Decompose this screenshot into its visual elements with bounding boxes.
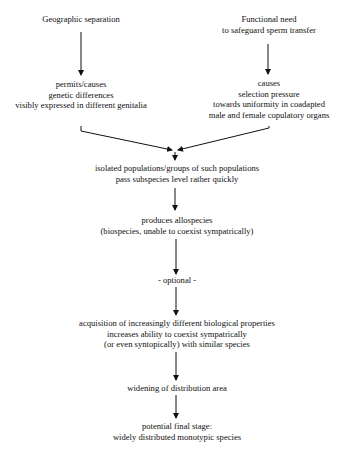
node-widening-distribution: widening of distribution area (0, 383, 354, 394)
text-line: Geographic separation (0, 14, 162, 25)
text-line: towards uniformity in coadapted (192, 99, 346, 110)
text-line: - optional - (0, 275, 354, 286)
node-selection-pressure: causes selection pressure towards unifor… (192, 78, 346, 120)
text-line: pass subspecies level rather quickly (0, 174, 354, 185)
node-geographic-separation: Geographic separation (0, 14, 162, 25)
text-line: permits/causes (0, 79, 162, 90)
node-optional: - optional - (0, 275, 354, 286)
node-allospecies: produces allospecies (biospecies, unable… (0, 215, 354, 236)
node-biological-properties: acquisition of increasingly different bi… (0, 318, 354, 350)
text-line: (biospecies, unable to coexist sympatric… (0, 226, 354, 237)
text-line: visibly expressed in different genitalia (0, 100, 162, 111)
text-line: isolated populations/groups of such popu… (0, 163, 354, 174)
text-line: Functional need (192, 14, 346, 25)
text-line: male and female copulatory organs (192, 110, 346, 121)
text-line: acquisition of increasingly different bi… (0, 318, 354, 329)
text-line: causes (192, 78, 346, 89)
text-line: increases ability to coexist sympatrical… (0, 329, 354, 340)
text-line: produces allospecies (0, 215, 354, 226)
text-line: potential final stage: (0, 421, 354, 432)
text-line: selection pressure (192, 89, 346, 100)
text-line: widely distributed monotypic species (0, 432, 354, 443)
text-line: widening of distribution area (0, 383, 354, 394)
node-final-stage: potential final stage: widely distribute… (0, 421, 354, 442)
node-isolated-populations: isolated populations/groups of such popu… (0, 163, 354, 184)
node-functional-need: Functional need to safeguard sperm trans… (192, 14, 346, 35)
arrow-left-converge (81, 126, 172, 150)
text-line: genetic differences (0, 90, 162, 101)
node-genetic-differences: permits/causes genetic differences visib… (0, 79, 162, 111)
text-line: (or even syntopically) with similar spec… (0, 339, 354, 350)
arrow-right-converge (178, 126, 269, 150)
text-line: to safeguard sperm transfer (192, 25, 346, 36)
